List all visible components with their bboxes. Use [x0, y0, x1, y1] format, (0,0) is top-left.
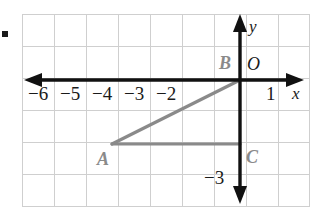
y-axis-down-arrow-icon [233, 186, 247, 204]
y-tick-label-neg3: −3 [204, 168, 224, 187]
vertex-label-c: C [246, 148, 258, 166]
y-axis-up-arrow-icon [233, 14, 247, 32]
x-axis-name: x [292, 85, 300, 102]
x-tick-label-neg3: −3 [124, 84, 144, 103]
x-tick-label-neg6: −6 [28, 84, 48, 103]
x-tick-label-1: 1 [266, 84, 276, 103]
x-tick-label-neg4: −4 [92, 84, 112, 103]
y-axis-name: y [249, 18, 257, 35]
x-tick-label-neg2: −2 [156, 84, 176, 103]
y-axis [233, 14, 247, 204]
axes-and-triangle [0, 0, 316, 223]
vertex-label-a: A [97, 150, 109, 168]
x-tick-label-neg5: −5 [60, 84, 80, 103]
coordinate-plane-figure: −6 −5 −4 −3 −2 1 −3 x y O B A C [0, 0, 316, 223]
origin-label: O [247, 55, 260, 73]
vertex-label-b: B [219, 54, 231, 72]
